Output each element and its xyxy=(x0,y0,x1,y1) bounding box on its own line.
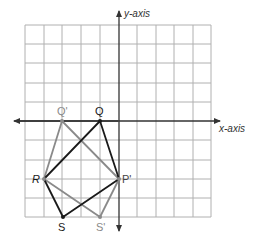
point-r xyxy=(42,177,46,181)
point-q xyxy=(98,119,102,123)
y-axis-label: y-axis xyxy=(123,8,150,19)
label-q: Q xyxy=(95,105,104,117)
point-s-prime xyxy=(98,215,102,219)
label-s-prime: S' xyxy=(96,221,105,233)
label-q-prime: Q' xyxy=(57,105,68,117)
label-r: R xyxy=(32,173,40,185)
point-p xyxy=(117,177,121,181)
x-axis-label: x-axis xyxy=(218,123,245,134)
point-s xyxy=(61,215,65,219)
coordinate-plane: x-axis y-axis Q' Q R P' S S' xyxy=(0,0,253,251)
label-s: S xyxy=(58,221,65,233)
point-q-prime xyxy=(60,119,64,123)
label-p-prime: P' xyxy=(122,173,131,185)
